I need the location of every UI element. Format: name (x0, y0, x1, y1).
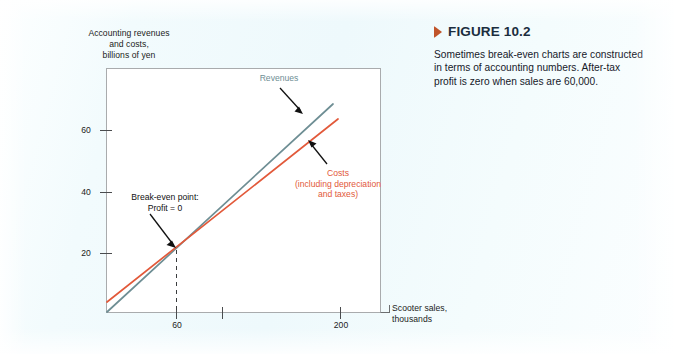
series-label-costs-line-3: and taxes) (286, 189, 390, 200)
y-axis-title-line-2: and costs, (58, 39, 200, 50)
annotation-break-even-line-1: Break-even point: (110, 192, 220, 203)
x-axis-title-line-1: Scooter sales, (392, 303, 478, 314)
y-tick-label-40: 40 (76, 187, 96, 197)
y-axis-title-line-3: billions of yen (58, 50, 200, 61)
series-label-costs-line-2: (including depreciation (286, 179, 390, 190)
triangle-right-icon (434, 26, 442, 38)
x-axis-title: Scooter sales, thousands (392, 303, 478, 325)
annotation-break-even: Break-even point: Profit = 0 (110, 192, 220, 214)
figure-caption-block: FIGURE 10.2 Sometimes break-even charts … (434, 24, 644, 88)
y-tick-label-60: 60 (76, 125, 96, 135)
y-tick-label-20: 20 (76, 248, 96, 258)
series-label-revenues-line-1: Revenues (244, 73, 314, 84)
figure-title: FIGURE 10.2 (448, 24, 531, 39)
series-label-revenues: Revenues (244, 73, 314, 84)
figure-heading: FIGURE 10.2 (434, 24, 644, 39)
x-axis-title-line-2: thousands (392, 314, 478, 325)
figure-caption-text: Sometimes break-even charts are construc… (434, 48, 644, 88)
x-tick-label-60: 60 (163, 320, 191, 330)
figure-page: Accounting revenues and costs, billions … (0, 0, 674, 354)
break-even-chart: Accounting revenues and costs, billions … (0, 0, 430, 354)
x-tick-label-200: 200 (327, 320, 355, 330)
y-axis-title-line-1: Accounting revenues (58, 28, 200, 39)
annotation-break-even-line-2: Profit = 0 (110, 203, 220, 214)
series-label-costs-line-1: Costs (286, 168, 390, 179)
series-label-costs: Costs (including depreciation and taxes) (286, 168, 390, 200)
y-axis-title: Accounting revenues and costs, billions … (58, 28, 200, 62)
